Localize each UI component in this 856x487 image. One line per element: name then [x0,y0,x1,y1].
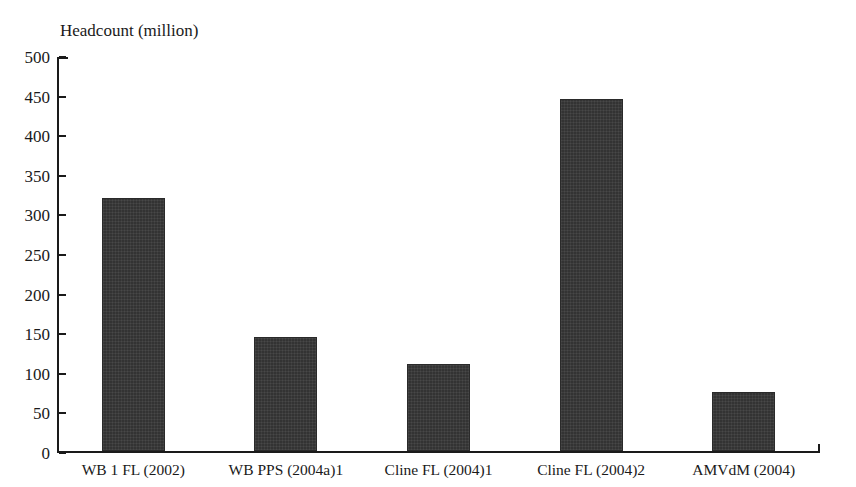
bar [712,392,775,451]
y-tick-400 [59,135,66,137]
bar-chart-figure: Headcount (million) 05010015020025030035… [0,0,856,487]
x-tick-label: WB PPS (2004a)1 [229,462,344,478]
y-tick-500 [59,56,66,58]
y-tick-label-250: 250 [25,247,51,264]
x-tick-label: AMVdM (2004) [692,462,795,478]
y-axis-tick-labels: 050100150200250300350400450500 [0,57,50,453]
x-tick-label: Cline FL (2004)2 [537,462,645,478]
bar [560,99,623,451]
plot-area [57,57,820,453]
y-tick-label-450: 450 [25,88,51,105]
y-tick-450 [59,96,66,98]
y-tick-250 [59,254,66,256]
y-tick-0 [59,452,66,454]
y-tick-200 [59,294,66,296]
y-tick-label-350: 350 [25,167,51,184]
y-tick-100 [59,373,66,375]
y-tick-label-300: 300 [25,207,51,224]
y-tick-label-0: 0 [42,445,51,462]
y-tick-label-150: 150 [25,326,51,343]
y-axis-title: Headcount (million) [60,21,198,41]
x-tick-label: WB 1 FL (2002) [82,462,185,478]
y-tick-label-50: 50 [33,405,50,422]
x-axis-right-end-tick [818,444,820,453]
bar [254,337,317,451]
bar [102,198,165,451]
y-tick-label-100: 100 [25,365,51,382]
y-tick-350 [59,175,66,177]
y-tick-300 [59,214,66,216]
bar [407,364,470,451]
y-tick-label-200: 200 [25,286,51,303]
y-tick-label-400: 400 [25,128,51,145]
y-tick-label-500: 500 [25,49,51,66]
y-tick-150 [59,333,66,335]
y-tick-50 [59,412,66,414]
x-tick-label: Cline FL (2004)1 [385,462,493,478]
x-axis-line [57,451,820,453]
